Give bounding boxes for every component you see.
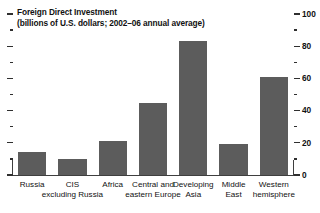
y-axis-tick-label: 20 xyxy=(302,139,311,147)
y-axis-tick-label: 100 xyxy=(302,10,316,18)
bar xyxy=(99,141,127,175)
y-axis-minor-tick-right xyxy=(294,29,297,30)
y-axis-major-tick-right xyxy=(294,46,300,47)
x-axis-category-label-line2: excluding Russia xyxy=(40,190,104,200)
plot-area xyxy=(12,14,294,175)
y-axis-major-tick-left xyxy=(7,142,13,143)
y-axis-tick-label: 0 xyxy=(302,171,307,179)
y-axis-major-tick-left xyxy=(7,110,13,111)
bar xyxy=(58,159,86,175)
y-axis-minor-tick-right xyxy=(294,94,297,95)
y-axis-minor-tick-left xyxy=(10,62,13,63)
x-axis-category-label-line1: CIS xyxy=(66,180,80,189)
bar xyxy=(260,77,288,175)
y-axis-tick-label: 40 xyxy=(302,106,311,114)
x-axis-category-label-line2: hemisphere xyxy=(242,190,306,200)
y-axis-minor-tick-left xyxy=(10,126,13,127)
y-axis-minor-tick-right xyxy=(294,62,297,63)
y-axis-major-tick-right xyxy=(294,110,300,111)
y-axis-minor-tick-right xyxy=(294,158,297,159)
y-axis-minor-tick-right xyxy=(294,126,297,127)
bar xyxy=(139,103,167,175)
y-axis-major-tick-left xyxy=(7,13,13,14)
y-axis-major-tick-right xyxy=(294,174,300,175)
y-axis-tick-label: 80 xyxy=(302,42,311,50)
bar xyxy=(219,144,247,175)
bar xyxy=(18,152,46,175)
y-axis-minor-tick-left xyxy=(10,158,13,159)
x-axis-category-label-line1: Western xyxy=(259,180,289,189)
y-axis-minor-tick-left xyxy=(10,94,13,95)
y-axis-minor-tick-left xyxy=(10,29,13,30)
y-axis-major-tick-right xyxy=(294,78,300,79)
y-axis-major-tick-right xyxy=(294,142,300,143)
y-axis-tick-label: 60 xyxy=(302,74,311,82)
bar xyxy=(179,41,207,175)
y-axis-major-tick-left xyxy=(7,46,13,47)
x-axis-baseline xyxy=(12,175,296,176)
fdi-bar-chart: Foreign Direct Investment (billions of U… xyxy=(0,0,320,213)
y-axis-major-tick-left xyxy=(7,78,13,79)
x-axis-category-label: Westernhemisphere xyxy=(242,180,306,200)
y-axis-major-tick-right xyxy=(294,13,300,14)
y-axis-major-tick-left xyxy=(7,174,13,175)
